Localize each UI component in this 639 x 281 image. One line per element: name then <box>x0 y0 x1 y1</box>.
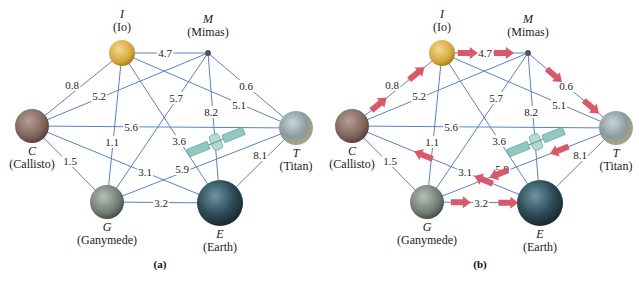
edge-weight-C-M: 5.2 <box>412 90 426 102</box>
node-name: (Earth) <box>523 240 557 254</box>
node-E: E(Earth) <box>517 180 563 254</box>
node-name: (Mimas) <box>507 25 548 39</box>
node-letter: I <box>439 7 445 21</box>
edge-I-G <box>427 53 442 202</box>
edge-weight-I-M: 4.7 <box>478 47 492 59</box>
node-letter: M <box>522 12 534 26</box>
edge-weight-C-I: 0.8 <box>65 79 79 91</box>
edge-weight-M-E: 8.2 <box>524 106 538 118</box>
path-arrow <box>545 67 562 82</box>
node-name: (Io) <box>113 20 131 34</box>
edge-C-T <box>32 126 296 128</box>
node-name: (Titan) <box>600 159 633 173</box>
node-name: (Io) <box>433 20 451 34</box>
node-C: C(Callisto) <box>9 109 54 171</box>
earth-planet-icon <box>197 180 243 226</box>
node-name: (Titan) <box>280 159 313 173</box>
edge-I-G <box>107 53 122 202</box>
edge-weight-I-G: 1.1 <box>105 136 119 148</box>
edge-weight-G-E: 3.2 <box>154 197 168 209</box>
edge-weight-C-G: 1.5 <box>383 155 397 167</box>
edge-weight-T-E: 8.1 <box>253 149 267 161</box>
titan-planet-icon <box>279 111 313 145</box>
node-M: M(Mimas) <box>507 12 548 56</box>
callisto-planet-icon <box>15 109 49 143</box>
edge-weight-C-G: 1.5 <box>63 155 77 167</box>
path-arrow <box>451 196 471 208</box>
edge-weight-I-G: 1.1 <box>425 136 439 148</box>
edge-weight-I-E: 3.6 <box>492 135 506 147</box>
node-name: (Ganymede) <box>77 233 137 247</box>
edge-weight-M-G: 5.7 <box>169 92 183 104</box>
edge-weight-C-I: 0.8 <box>385 79 399 91</box>
node-letter: T <box>293 146 301 160</box>
path-arrow <box>458 47 478 59</box>
node-letter: M <box>202 12 214 26</box>
node-name: (Callisto) <box>329 157 374 171</box>
mimas-planet-icon <box>525 50 531 56</box>
node-letter: I <box>119 7 125 21</box>
edge-C-E <box>352 126 540 203</box>
node-I: I(Io) <box>109 7 135 66</box>
edge-C-E <box>32 126 220 203</box>
edge-weight-G-E: 3.2 <box>474 197 488 209</box>
panel-label: (b) <box>473 258 487 271</box>
edge-weight-T-E: 8.1 <box>573 149 587 161</box>
mimas-planet-icon <box>205 50 211 56</box>
edge-weight-C-T: 5.6 <box>124 121 138 133</box>
node-letter: E <box>535 227 544 241</box>
edge-weight-I-E: 3.6 <box>172 135 186 147</box>
node-name: (Ganymede) <box>397 233 457 247</box>
node-T: T(Titan) <box>279 111 313 173</box>
edge-weight-C-E: 3.1 <box>138 166 152 178</box>
edge-C-T <box>352 126 616 128</box>
panel-b: 4.70.85.25.10.65.78.25.61.13.61.53.15.98… <box>329 7 633 271</box>
path-arrow <box>494 47 514 59</box>
edge-weight-M-E: 8.2 <box>204 106 218 118</box>
node-letter: T <box>613 146 621 160</box>
edge-weight-M-T: 0.6 <box>239 80 253 92</box>
panel-a: 4.70.85.25.10.65.78.25.61.13.61.53.15.98… <box>9 7 313 271</box>
ganymede-planet-icon <box>90 185 124 219</box>
callisto-planet-icon <box>335 109 369 143</box>
node-E: E(Earth) <box>197 180 243 254</box>
node-C: C(Callisto) <box>329 109 374 171</box>
path-arrow <box>407 67 424 82</box>
edge-weight-I-M: 4.7 <box>158 47 172 59</box>
node-M: M(Mimas) <box>187 12 228 56</box>
edge-weight-M-G: 5.7 <box>489 92 503 104</box>
titan-planet-icon <box>599 111 633 145</box>
edge-weight-C-E: 3.1 <box>458 166 472 178</box>
node-T: T(Titan) <box>599 111 633 173</box>
edge-weight-I-T: 5.1 <box>552 99 566 111</box>
node-I: I(Io) <box>429 7 455 66</box>
node-letter: C <box>348 144 357 158</box>
panel-label: (a) <box>154 258 167 271</box>
edge-weight-C-M: 5.2 <box>92 90 106 102</box>
node-letter: E <box>215 227 224 241</box>
edge-weight-G-T: 5.9 <box>175 163 189 175</box>
io-planet-icon <box>429 40 455 66</box>
path-arrow <box>582 98 599 113</box>
path-arrow <box>550 144 570 157</box>
node-letter: G <box>423 220 432 234</box>
node-letter: C <box>28 144 37 158</box>
io-planet-icon <box>109 40 135 66</box>
node-name: (Earth) <box>203 240 237 254</box>
path-arrow <box>498 197 518 209</box>
node-letter: G <box>103 220 112 234</box>
earth-planet-icon <box>517 180 563 226</box>
node-name: (Mimas) <box>187 25 228 39</box>
ganymede-planet-icon <box>410 185 444 219</box>
path-arrow <box>369 98 386 113</box>
figure: 4.70.85.25.10.65.78.25.61.13.61.53.15.98… <box>0 0 639 281</box>
edge-weight-C-T: 5.6 <box>444 121 458 133</box>
node-name: (Callisto) <box>9 157 54 171</box>
edge-weight-I-T: 5.1 <box>232 99 246 111</box>
path-arrow <box>414 149 434 162</box>
